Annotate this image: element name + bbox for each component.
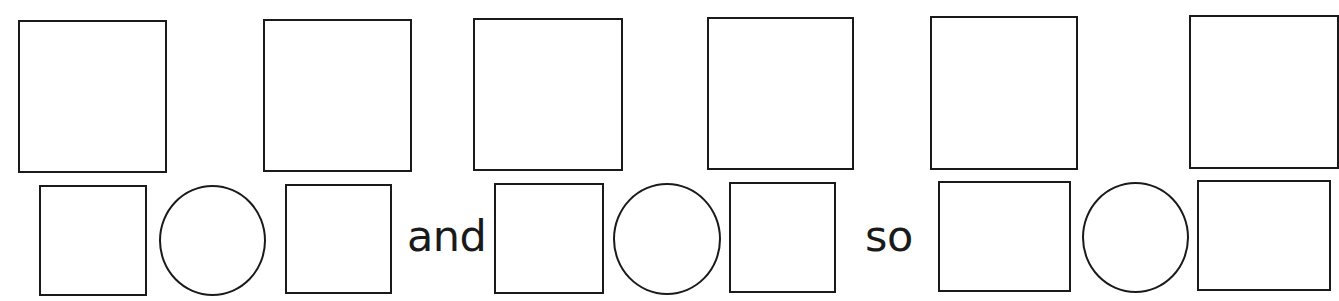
top-box-1[interactable]	[18, 20, 167, 173]
equation-1-right-box[interactable]	[285, 184, 392, 294]
connector-and: and	[407, 215, 486, 258]
equation-3-right-box[interactable]	[1197, 180, 1331, 291]
equation-1-operator-circle[interactable]	[159, 185, 266, 296]
top-box-4[interactable]	[707, 17, 854, 170]
equation-2-left-box[interactable]	[494, 183, 604, 294]
equation-1-left-box[interactable]	[39, 185, 147, 296]
connector-so: so	[865, 215, 913, 258]
equation-2-right-box[interactable]	[729, 182, 836, 293]
top-box-2[interactable]	[263, 19, 412, 172]
top-box-6[interactable]	[1189, 15, 1339, 169]
equation-3-left-box[interactable]	[938, 181, 1071, 292]
top-box-5[interactable]	[930, 16, 1078, 170]
top-box-3[interactable]	[473, 18, 623, 171]
equation-3-operator-circle[interactable]	[1082, 182, 1189, 293]
equation-2-operator-circle[interactable]	[613, 183, 721, 295]
